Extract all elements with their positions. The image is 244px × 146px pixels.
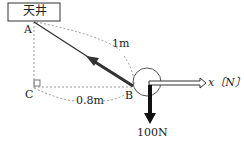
dimension-arc-left xyxy=(34,88,75,101)
force-diagram xyxy=(0,0,244,146)
horizontal-distance-label: 0.8m xyxy=(76,95,104,106)
ceiling-label: 天井 xyxy=(23,5,47,17)
point-c-label: C xyxy=(25,89,33,100)
right-angle-marker xyxy=(34,80,40,86)
x-axis-label: x〔N〕 xyxy=(208,77,244,88)
tension-arrow-shaft xyxy=(95,62,133,86)
x-axis-arrow xyxy=(149,78,206,88)
dimension-arc-top xyxy=(36,22,120,50)
weight-arrow-shaft xyxy=(148,85,152,115)
point-a-label: A xyxy=(24,24,32,35)
weight-arrow-head xyxy=(144,113,156,124)
rope-length-label: 1m xyxy=(112,38,129,49)
point-b-label: B xyxy=(125,90,133,101)
weight-force-label: 100N xyxy=(137,127,168,138)
